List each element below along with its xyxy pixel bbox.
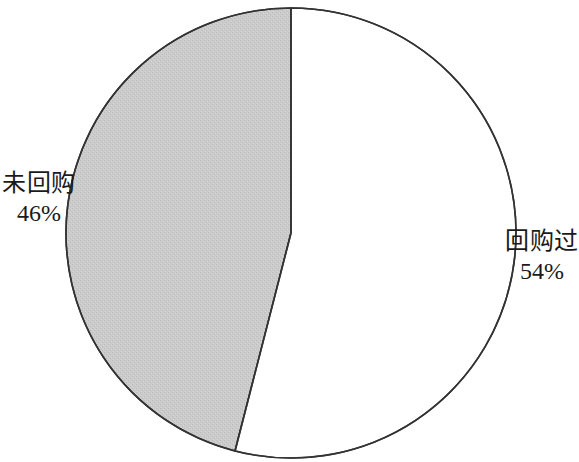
pie-label-repurchased-name: 回购过: [505, 228, 579, 255]
pie-chart-graphic: [0, 0, 579, 462]
pie-label-unrepurchased-name: 未回购: [0, 170, 78, 197]
pie-chart: 未回购 46% 回购过 54%: [0, 0, 579, 462]
pie-label-repurchased: 回购过 54%: [505, 228, 579, 285]
pie-label-repurchased-value: 54%: [505, 258, 579, 285]
pie-label-unrepurchased: 未回购 46%: [0, 170, 78, 227]
pie-label-unrepurchased-value: 46%: [0, 200, 78, 227]
